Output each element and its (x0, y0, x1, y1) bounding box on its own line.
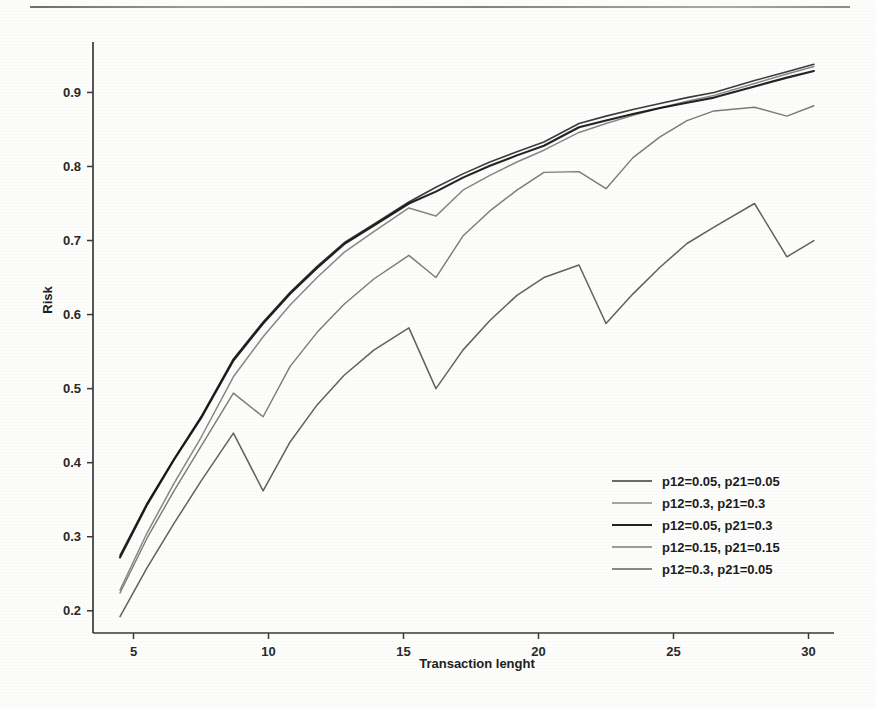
y-axis-title: Risk (40, 286, 55, 314)
legend-item: p12=0.05, p21=0.05 (612, 474, 780, 489)
legend-label: p12=0.3, p21=0.3 (662, 496, 765, 511)
x-tick-label: 25 (666, 644, 680, 659)
y-tick-label: 0.4 (63, 455, 82, 470)
series-group (120, 64, 814, 616)
x-axis-title: Transaction lenght (419, 656, 535, 671)
y-tick-label: 0.6 (63, 307, 81, 322)
legend-label: p12=0.3, p21=0.05 (662, 562, 773, 577)
risk-vs-transaction-length-chart: 0.20.30.40.50.60.70.80.951015202530 Risk… (0, 0, 876, 708)
x-tick-label: 15 (396, 644, 410, 659)
legend-label: p12=0.05, p21=0.05 (662, 474, 780, 489)
legend-item: p12=0.05, p21=0.3 (612, 518, 773, 533)
legend-item: p12=0.3, p21=0.3 (612, 496, 765, 511)
x-tick-label: 10 (261, 644, 275, 659)
x-tick-label: 30 (801, 644, 815, 659)
series-line-4 (120, 204, 814, 617)
legend-label: p12=0.15, p21=0.15 (662, 540, 780, 555)
y-tick-label: 0.9 (63, 85, 81, 100)
y-tick-label: 0.3 (63, 529, 81, 544)
chart-legend: p12=0.05, p21=0.05p12=0.3, p21=0.3p12=0.… (612, 474, 780, 577)
legend-item: p12=0.3, p21=0.05 (612, 562, 773, 577)
legend-label: p12=0.05, p21=0.3 (662, 518, 773, 533)
series-line-1 (120, 67, 814, 591)
chart-svg: 0.20.30.40.50.60.70.80.951015202530 Risk… (0, 0, 876, 708)
y-tick-label: 0.7 (63, 233, 81, 248)
y-tick-label: 0.8 (63, 159, 81, 174)
x-tick-label: 5 (130, 644, 137, 659)
y-tick-label: 0.5 (63, 381, 81, 396)
y-tick-label: 0.2 (63, 603, 81, 618)
legend-item: p12=0.15, p21=0.15 (612, 540, 780, 555)
ticks-group (87, 92, 809, 639)
